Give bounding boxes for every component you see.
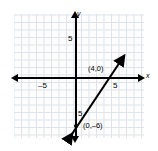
y-axis-arrow-down-icon [71, 136, 79, 143]
point-label-y-intercept: (0,–6) [83, 122, 103, 130]
coordinate-plane-figure: x y –5 5 5 5 (4,0) (0,–6) [0, 0, 158, 151]
x-axis-label: x [146, 72, 150, 79]
y-axis-tick-label-negative-5: 5 [78, 110, 82, 118]
point-label-x-intercept: (4,0) [88, 65, 103, 73]
x-axis-tick-label-negative-5: –5 [38, 82, 47, 90]
x-axis-arrow-right-icon [138, 74, 145, 82]
x-axis-arrow-left-icon [11, 74, 18, 82]
point-marker-y-intercept [74, 124, 78, 128]
y-axis-label: y [77, 10, 81, 17]
x-axis [16, 77, 140, 79]
grid-background [14, 14, 144, 138]
x-axis-tick-label-positive-5: 5 [113, 82, 117, 90]
y-axis [75, 16, 77, 138]
y-axis-tick-label-positive-5: 5 [68, 35, 72, 43]
